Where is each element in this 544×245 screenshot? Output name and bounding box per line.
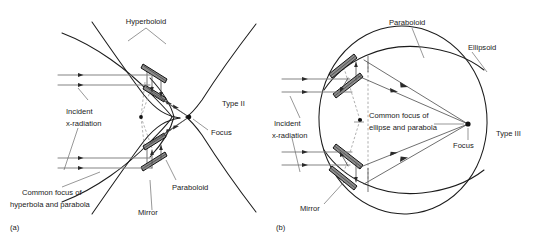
label-ellipsoid-b: Ellipsoid <box>468 43 496 52</box>
leader-focus-a <box>193 119 208 130</box>
common-focus-point-b <box>358 118 362 122</box>
leader-incident-b-upper <box>290 96 300 118</box>
label-incident-b-line1: Incident <box>274 119 301 128</box>
incident-rays-upper <box>58 73 152 87</box>
label-incident-line1: Incident <box>66 107 93 116</box>
leader-incident-b-lower <box>292 138 300 172</box>
label-type-ii: Type II <box>222 99 245 108</box>
leader-incident <box>78 88 88 100</box>
label-hyperboloid: Hyperboloid <box>126 17 167 26</box>
label-mirror-a: Mirror <box>138 208 158 217</box>
label-paraboloid-b: Paraboloid <box>389 18 425 27</box>
focus-point-a <box>187 115 192 120</box>
label-paraboloid-a: Paraboloid <box>172 183 208 192</box>
label-mirror-b: Mirror <box>300 204 320 213</box>
ellipsoid-curve <box>313 20 494 219</box>
label-focus-a: Focus <box>211 128 232 137</box>
leader-mirror <box>150 180 152 210</box>
leader-mirror-b <box>324 182 344 204</box>
figure-root: Hyperboloid Incident x-radiation Type II… <box>0 0 544 245</box>
panel-a-construction <box>139 68 152 168</box>
hyperboloid-right-upper <box>186 24 256 117</box>
caption-panel-a: (a) <box>10 223 20 232</box>
leader-common-focus <box>62 172 100 187</box>
panel-a-conics <box>62 22 256 214</box>
label-type-iii: Type III <box>496 129 521 138</box>
leader-paraboloid <box>166 160 176 180</box>
common-focus-point <box>139 115 143 119</box>
incident-rays-lower <box>58 156 152 170</box>
caption-panel-b: (b) <box>276 223 286 232</box>
panel-b-conics <box>313 20 494 219</box>
label-common-focus-line1: Common focus of <box>22 188 82 197</box>
leader-paraboloid-b <box>412 28 424 58</box>
leader-hyperboloid <box>128 28 166 44</box>
label-incident-b-line2: x-radiation <box>272 131 307 140</box>
label-common-focus-b-line1: Common focus of <box>369 111 429 120</box>
label-incident-line2: x-radiation <box>66 119 101 128</box>
mirror-upper-ellipsoid-b <box>333 73 363 98</box>
leader-ellipsoid-b <box>472 52 487 72</box>
panel-a-diagram: Hyperboloid Incident x-radiation Type II… <box>0 0 272 245</box>
mirror-upper-paraboloid <box>141 64 167 83</box>
label-focus-b: Focus <box>453 141 474 150</box>
leader-incident-lower <box>64 128 78 170</box>
label-common-focus-b-line2: ellipse and parabola <box>369 123 438 132</box>
panel-b-diagram: Paraboloid Ellipsoid Incident x-radiatio… <box>272 0 544 245</box>
focus-point-b <box>465 121 470 126</box>
label-common-focus-line2: hyperbola and parabola <box>10 200 91 209</box>
reflected-rays-lower-b <box>340 124 468 184</box>
